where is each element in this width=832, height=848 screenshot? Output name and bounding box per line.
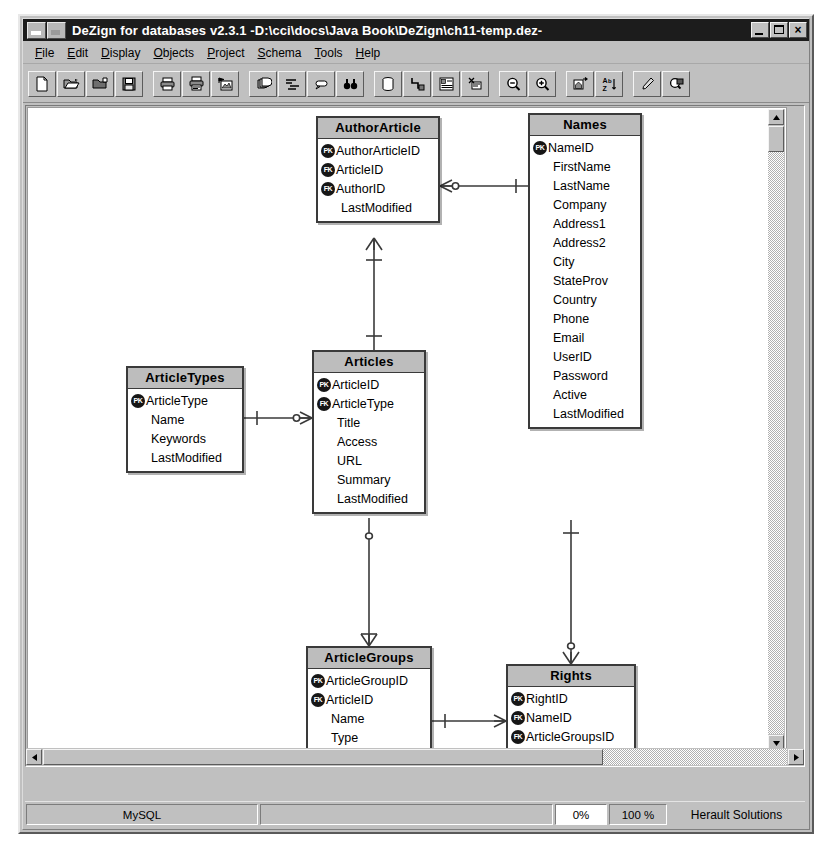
attribute-row[interactable]: PKAuthorArticleID (321, 141, 435, 160)
scroll-left-button[interactable] (26, 749, 42, 765)
entity-attributes-names: PKNameIDFirstNameLastNameCompanyAddress1… (530, 136, 640, 427)
attribute-row[interactable]: FKArticleType (317, 394, 421, 413)
attribute-row[interactable]: Active (533, 385, 637, 404)
home-view-icon[interactable] (566, 71, 594, 97)
attribute-row[interactable]: FKArticleGroupsID (511, 727, 631, 746)
attribute-row[interactable]: PKArticleID (317, 375, 421, 394)
foreign-key-icon: FK (321, 182, 335, 196)
attribute-row[interactable]: StateProv (533, 271, 637, 290)
attribute-row[interactable]: Access (317, 432, 421, 451)
attribute-row[interactable]: LastModified (321, 198, 435, 217)
attribute-row[interactable]: Phone (533, 309, 637, 328)
attribute-row[interactable]: LastModified (317, 489, 421, 508)
attribute-row[interactable]: Name (311, 709, 427, 728)
attribute-row[interactable]: FKArticleID (311, 690, 427, 709)
menu-item-schema[interactable]: Schema (251, 45, 308, 61)
entity-names[interactable]: NamesPKNameIDFirstNameLastNameCompanyAdd… (528, 113, 642, 429)
attribute-row[interactable]: FKArticleID (321, 160, 435, 179)
entity-title-articletypes: ArticleTypes (128, 368, 242, 389)
system-menu-icon[interactable] (27, 22, 46, 39)
find-binoculars-icon[interactable] (336, 71, 364, 97)
close-button[interactable]: × (789, 22, 807, 38)
vertical-scrollbar[interactable] (768, 109, 785, 749)
layers-icon[interactable] (249, 71, 277, 97)
print-icon[interactable] (153, 71, 181, 97)
attribute-name: URL (337, 454, 362, 468)
attribute-row[interactable]: Password (533, 366, 637, 385)
attribute-name: City (553, 255, 575, 269)
attribute-row[interactable]: LastModified (131, 448, 239, 467)
open-folder-icon[interactable] (57, 71, 85, 97)
entity-articlegroups[interactable]: ArticleGroupsPKArticleGroupIDFKArticleID… (306, 646, 432, 749)
attribute-row[interactable]: Company (533, 195, 637, 214)
attribute-row[interactable]: Email (533, 328, 637, 347)
select-region-icon[interactable] (662, 71, 690, 97)
attribute-row[interactable]: Title (317, 413, 421, 432)
attribute-row[interactable]: Country (533, 290, 637, 309)
menu-item-project[interactable]: Project (201, 45, 251, 61)
attribute-row[interactable]: PKArticleType (131, 391, 239, 410)
vertical-scroll-track[interactable] (768, 126, 784, 734)
menu-item-file[interactable]: File (29, 45, 61, 61)
attribute-row[interactable]: FKAuthorID (321, 179, 435, 198)
database-icon[interactable] (374, 71, 402, 97)
attribute-row[interactable]: UserID (533, 347, 637, 366)
attribute-row[interactable]: PKRightID (511, 689, 631, 708)
attribute-row[interactable]: URL (317, 451, 421, 470)
status-zoom-level[interactable]: 100 % (609, 804, 667, 825)
attribute-row[interactable]: Address2 (533, 233, 637, 252)
scroll-down-button[interactable] (768, 735, 784, 749)
attribute-row[interactable]: Summary (317, 470, 421, 489)
export-image-icon[interactable] (211, 71, 239, 97)
no-key-spacer (131, 432, 145, 446)
title-bar[interactable]: DeZign for databases v2.3.1 -D:\cci\docs… (23, 19, 809, 41)
relation-icon[interactable] (403, 71, 431, 97)
menu-item-display[interactable]: Display (95, 45, 147, 61)
entity-articles[interactable]: ArticlesPKArticleIDFKArticleTypeTitleAcc… (312, 350, 426, 514)
new-document-icon[interactable] (28, 71, 56, 97)
vertical-scroll-thumb[interactable] (768, 126, 784, 152)
menu-item-edit[interactable]: Edit (61, 45, 95, 61)
attribute-row[interactable]: Keywords (131, 429, 239, 448)
sort-az-icon[interactable]: AbZ (595, 71, 623, 97)
menu-item-tools[interactable]: Tools (309, 45, 350, 61)
attribute-name: UserID (553, 350, 592, 364)
cut-entity-icon[interactable] (461, 71, 489, 97)
scroll-up-button[interactable] (768, 109, 784, 125)
horizontal-scroll-thumb[interactable] (43, 749, 603, 765)
toolbar-separator (144, 83, 153, 84)
diagram-canvas[interactable]: AuthorArticlePKAuthorArticleIDFKArticleI… (27, 107, 787, 749)
menu-item-help[interactable]: Help (350, 45, 388, 61)
menu-item-objects[interactable]: Objects (147, 45, 201, 61)
zoom-in-icon[interactable] (528, 71, 556, 97)
horizontal-scrollbar[interactable] (26, 748, 804, 766)
attribute-row[interactable]: Type (311, 728, 427, 747)
note-icon[interactable] (307, 71, 335, 97)
maximize-button[interactable] (770, 22, 788, 38)
save-as-folder-icon[interactable] (86, 71, 114, 97)
attribute-name: Summary (337, 473, 390, 487)
minimize-button[interactable] (751, 22, 769, 38)
entity-icon[interactable] (432, 71, 460, 97)
no-key-spacer (317, 492, 331, 506)
zoom-out-icon[interactable] (499, 71, 527, 97)
attribute-row[interactable]: PKNameID (533, 138, 637, 157)
attribute-row[interactable]: FKNameID (511, 708, 631, 727)
pen-icon[interactable] (633, 71, 661, 97)
attribute-row[interactable]: Address1 (533, 214, 637, 233)
entity-articletypes[interactable]: ArticleTypesPKArticleTypeNameKeywordsLas… (126, 366, 244, 473)
save-disk-icon[interactable] (115, 71, 143, 97)
entity-rights[interactable]: RightsPKRightIDFKNameIDFKArticleGroupsID… (506, 664, 636, 749)
attribute-name: Name (331, 712, 364, 726)
attribute-row[interactable]: LastName (533, 176, 637, 195)
attribute-row[interactable]: City (533, 252, 637, 271)
print-preview-icon[interactable] (182, 71, 210, 97)
attribute-row[interactable]: FirstName (533, 157, 637, 176)
attribute-row[interactable]: PKArticleGroupID (311, 671, 427, 690)
entity-title-articlegroups: ArticleGroups (308, 648, 430, 669)
attribute-row[interactable]: LastModified (533, 404, 637, 423)
attribute-row[interactable]: Name (131, 410, 239, 429)
entity-authorarticle[interactable]: AuthorArticlePKAuthorArticleIDFKArticleI… (316, 116, 440, 223)
align-icon[interactable] (278, 71, 306, 97)
scroll-right-button[interactable] (788, 749, 804, 765)
